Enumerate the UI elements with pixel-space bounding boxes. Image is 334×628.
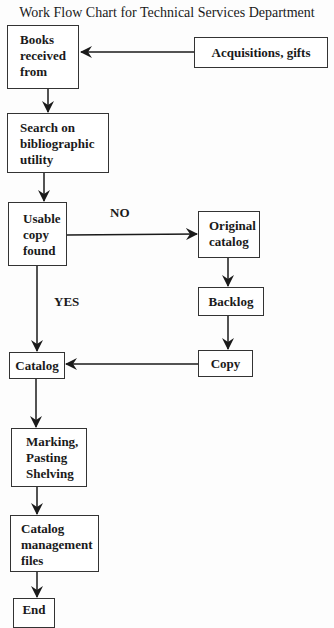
node-label: End [14, 602, 54, 618]
node-catalog-mgmt: Catalog management files [10, 515, 99, 572]
node-acquisitions: Acquisitions, gifts [194, 37, 328, 68]
node-marking: Marking, Pasting Shelving [11, 428, 87, 487]
node-label: Books received from [20, 32, 78, 80]
node-label: Usable copy found [23, 211, 66, 259]
node-catalog: Catalog [9, 352, 65, 379]
node-label: Catalog management files [21, 521, 98, 569]
node-backlog: Backlog [198, 287, 264, 316]
node-end: End [13, 598, 55, 628]
node-label: Backlog [199, 294, 263, 310]
node-search: Search on bibliographic utility [7, 113, 109, 173]
node-label: Original catalog [209, 218, 259, 250]
node-usable-copy: Usable copy found [8, 202, 67, 266]
node-label: Catalog [10, 358, 64, 374]
node-label: Marking, Pasting Shelving [26, 434, 86, 482]
node-label: Search on bibliographic utility [20, 120, 108, 168]
node-copy: Copy [198, 350, 253, 377]
node-original-catalog: Original catalog [198, 211, 260, 258]
node-label: Copy [199, 356, 252, 372]
node-books-received: Books received from [7, 25, 79, 89]
edge-label-yes: YES [54, 294, 79, 310]
node-label: Acquisitions, gifts [195, 45, 327, 61]
edge-label-no: NO [110, 205, 130, 221]
